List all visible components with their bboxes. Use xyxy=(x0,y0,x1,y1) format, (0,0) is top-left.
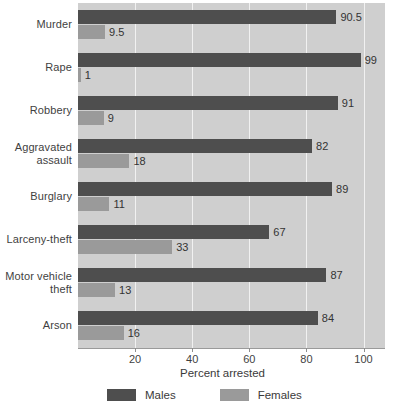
chart-legend: Males Females xyxy=(107,389,302,401)
legend-swatch-females-icon xyxy=(220,389,249,401)
tick-label-100: 100 xyxy=(354,353,372,365)
bar-value-murder-males: 90.5 xyxy=(340,10,361,24)
bar-value-murder-females: 9.5 xyxy=(109,25,124,39)
bar-value-motor-vehicle-theft-males: 87 xyxy=(330,268,342,282)
tick-label-40: 40 xyxy=(186,353,198,365)
category-label-robbery: Robbery xyxy=(0,104,72,117)
bar-murder-females xyxy=(78,25,105,39)
legend-swatch-males-icon xyxy=(107,389,136,401)
legend-item-males: Males xyxy=(107,389,176,401)
bar-larceny-theft-females xyxy=(78,240,172,254)
x-axis-line xyxy=(78,348,385,349)
tick-mark-20 xyxy=(135,348,136,352)
bar-burglary-females xyxy=(78,197,109,211)
bar-arson-males xyxy=(78,311,318,325)
bar-value-robbery-females: 9 xyxy=(108,111,114,125)
category-label-line: Motor vehicle xyxy=(0,270,72,283)
legend-item-females: Females xyxy=(220,389,302,401)
bar-motor-vehicle-theft-females xyxy=(78,283,115,297)
bar-robbery-males xyxy=(78,96,338,110)
category-label-line: Aggravated xyxy=(0,141,72,154)
bar-aggravated-assault-males xyxy=(78,139,312,153)
tick-mark-40 xyxy=(192,348,193,352)
bar-murder-males xyxy=(78,10,336,24)
category-label-line: Arson xyxy=(0,319,72,332)
legend-label-females: Females xyxy=(258,389,302,401)
tick-mark-60 xyxy=(249,348,250,352)
bar-larceny-theft-males xyxy=(78,225,269,239)
bar-aggravated-assault-females xyxy=(78,154,129,168)
tick-label-60: 60 xyxy=(243,353,255,365)
bar-rape-males xyxy=(78,53,361,67)
category-label-line: assault xyxy=(0,154,72,167)
bar-value-motor-vehicle-theft-females: 13 xyxy=(119,283,131,297)
bar-value-arson-males: 84 xyxy=(322,311,334,325)
bar-value-rape-males: 99 xyxy=(365,53,377,67)
category-label-line: Murder xyxy=(0,18,72,31)
bar-value-burglary-females: 11 xyxy=(113,197,124,211)
bar-value-rape-females: 1 xyxy=(85,68,91,82)
bar-value-larceny-theft-females: 33 xyxy=(176,240,188,254)
category-label-line: Larceny-theft xyxy=(0,233,72,246)
category-label-rape: Rape xyxy=(0,61,72,74)
bar-value-larceny-theft-males: 67 xyxy=(273,225,285,239)
bar-chart: MurderRapeRobberyAggravatedassaultBurgla… xyxy=(0,0,399,411)
bar-robbery-females xyxy=(78,111,104,125)
tick-label-80: 80 xyxy=(300,353,312,365)
bar-value-aggravated-assault-females: 18 xyxy=(133,154,145,168)
bar-burglary-males xyxy=(78,182,332,196)
category-label-line: theft xyxy=(0,283,72,296)
category-label-line: Burglary xyxy=(0,190,72,203)
bar-value-arson-females: 16 xyxy=(128,326,140,340)
category-label-aggravated-assault: Aggravatedassault xyxy=(0,141,72,166)
category-label-larceny-theft: Larceny-theft xyxy=(0,233,72,246)
x-axis-title: Percent arrested xyxy=(0,367,399,379)
bar-value-robbery-males: 91 xyxy=(342,96,354,110)
tick-mark-80 xyxy=(306,348,307,352)
tick-mark-100 xyxy=(364,348,365,352)
bar-value-burglary-males: 89 xyxy=(336,182,348,196)
category-label-line: Robbery xyxy=(0,104,72,117)
tick-label-20: 20 xyxy=(129,353,141,365)
category-label-arson: Arson xyxy=(0,319,72,332)
bar-value-aggravated-assault-males: 82 xyxy=(316,139,328,153)
bar-arson-females xyxy=(78,326,124,340)
legend-label-males: Males xyxy=(145,389,176,401)
bar-rape-females xyxy=(78,68,81,82)
category-label-burglary: Burglary xyxy=(0,190,72,203)
category-label-motor-vehicle-theft: Motor vehicletheft xyxy=(0,270,72,295)
bar-motor-vehicle-theft-males xyxy=(78,268,326,282)
category-label-murder: Murder xyxy=(0,18,72,31)
category-label-line: Rape xyxy=(0,61,72,74)
